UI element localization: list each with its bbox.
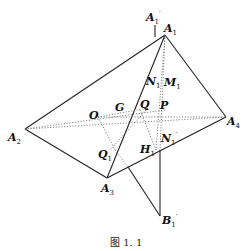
label-n1: N1 (145, 75, 161, 90)
segment-a3-b1p (128, 167, 160, 216)
label-m1: M1 (163, 76, 181, 91)
label-a1: A1 (163, 22, 177, 37)
label-q: Q (140, 98, 150, 111)
label-n1-prime: N1′ (160, 131, 178, 147)
hidden-edge-a2-a4 (25, 117, 226, 129)
edge-a2-a3 (25, 129, 107, 178)
label-h1: H1 (139, 143, 155, 158)
dotted-q1-a3 (115, 150, 128, 167)
dotted-o-q1 (98, 117, 115, 150)
label-q1: Q1 (98, 148, 112, 163)
label-a3: A3 (100, 182, 114, 197)
label-g: G (115, 101, 124, 114)
edge-a3-a4 (107, 117, 226, 178)
label-b1-prime: B1′ (161, 213, 178, 229)
figure-caption: 图 1. 1 (110, 237, 142, 248)
label-a4: A4 (226, 115, 241, 130)
geometry-figure: A1′ A1 A2 A3 A4 B1′ O G Q P N1 M1 H1 N1′… (0, 0, 249, 251)
label-a1-prime: A1′ (145, 10, 161, 26)
label-o: O (89, 109, 99, 122)
label-a2: A2 (7, 131, 21, 146)
label-p: P (159, 99, 169, 112)
